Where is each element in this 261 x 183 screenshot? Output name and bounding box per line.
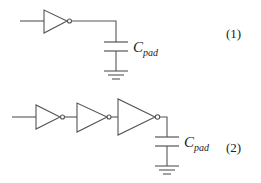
inverter-2a: [36, 105, 60, 129]
inverter-1: [44, 10, 67, 33]
circuit-1: Cpad (1): [20, 10, 241, 79]
equation-number-1: (1): [226, 26, 241, 41]
ground-icon: [104, 71, 128, 79]
output-wire-2: [160, 117, 167, 137]
circuit-2: Cpad (2): [12, 99, 241, 174]
output-wire-1: [72, 21, 116, 42]
inverter-2b: [77, 103, 107, 132]
inverter-2c: [118, 99, 155, 135]
capacitor-label-1: Cpad: [133, 39, 159, 58]
ground-icon: [155, 166, 179, 174]
capacitor-label-2: Cpad: [184, 134, 210, 153]
circuit-diagram: Cpad (1) Cpad (2): [0, 0, 261, 183]
equation-number-2: (2): [226, 140, 241, 155]
